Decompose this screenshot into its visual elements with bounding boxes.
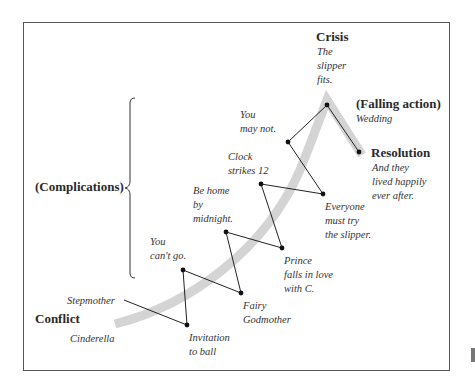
plot-dot-prince <box>280 246 285 251</box>
plot-dot-resolution <box>357 150 362 155</box>
fairy-godmother-label: Fairy Godmother <box>243 299 291 327</box>
crisis-heading: Crisis <box>316 30 349 44</box>
plot-dot-fairy-godmother <box>239 291 244 296</box>
page-edge-marker <box>471 348 475 362</box>
conflict-text: Cinderella <box>70 332 115 346</box>
plot-dot-you-may-not <box>286 140 291 145</box>
be-home-label: Be home by midnight. <box>193 184 233 226</box>
invitation-label: Invitation to ball <box>189 331 230 359</box>
everyone-label: Everyone must try the slipper. <box>325 200 371 242</box>
curly-brace-icon <box>124 97 138 279</box>
prince-label: Prince falls in love with C. <box>284 254 333 296</box>
plot-dot-be-home <box>224 230 229 235</box>
you-may-not-label: You may not. <box>240 108 276 136</box>
plot-dot-you-cant-go <box>181 268 186 273</box>
plot-dot-everyone <box>321 192 326 197</box>
resolution-text: And they lived happily ever after. <box>372 161 427 203</box>
clock-label: Clock strikes 12 <box>228 150 269 178</box>
plot-dot-invitation <box>185 323 190 328</box>
stepmother-label: Stepmother <box>67 294 115 308</box>
plot-dot-clock <box>259 182 264 187</box>
falling-action-text: Wedding <box>356 112 392 126</box>
crisis-text: The slipper fits. <box>317 45 346 87</box>
falling-action-heading: (Falling action) <box>356 97 441 111</box>
conflict-heading: Conflict <box>35 312 80 326</box>
plot-dot-crisis <box>325 103 330 108</box>
resolution-heading: Resolution <box>371 146 430 160</box>
you-cant-go-label: You can't go. <box>150 235 186 263</box>
complications-heading: (Complications) <box>35 180 124 194</box>
